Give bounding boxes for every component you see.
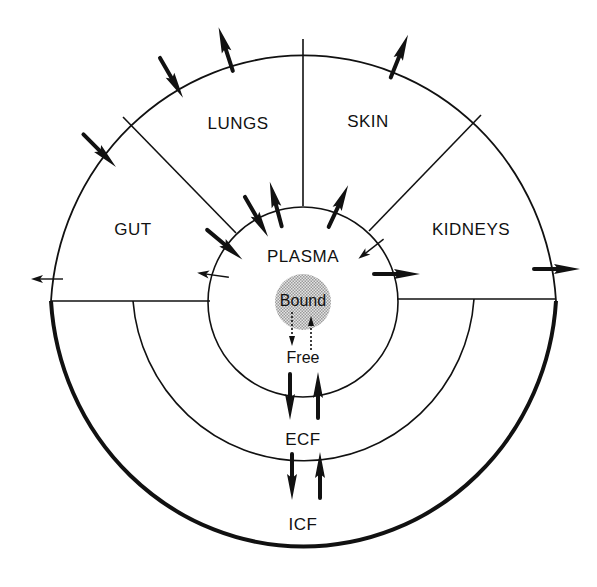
label-icf: ICF xyxy=(289,515,318,534)
label-skin: SKIN xyxy=(347,112,389,131)
outer-boundary-lower xyxy=(51,301,556,547)
plasma-to-skin-arrow xyxy=(324,183,353,229)
spoke-gut-lungs xyxy=(123,117,236,233)
ecf-to-plasma-arrow xyxy=(313,372,323,418)
kidney-excretion-arrow xyxy=(534,264,580,274)
plasma-to-ecf-arrow xyxy=(285,374,295,420)
spoke-skin-kidneys xyxy=(369,115,481,231)
plasma-to-kidneys-arrow xyxy=(374,269,420,279)
skin-excretion-arrow xyxy=(386,33,413,79)
gut-excretion-arrow xyxy=(31,275,63,283)
label-free: Free xyxy=(287,349,320,366)
label-lungs: LUNGS xyxy=(207,114,268,133)
label-ecf: ECF xyxy=(285,430,321,449)
lungs-absorption-arrow xyxy=(241,194,273,239)
label-plasma: PLASMA xyxy=(267,247,339,266)
plasma-to-lungs-arrow xyxy=(265,181,287,228)
label-bound: Bound xyxy=(280,292,326,309)
compartment-diagram: LUNGS SKIN GUT KIDNEYS PLASMA Bound Free… xyxy=(0,0,597,587)
gut-intake-arrow xyxy=(80,131,120,171)
label-kidneys: KIDNEYS xyxy=(432,220,510,239)
label-gut: GUT xyxy=(114,220,151,239)
